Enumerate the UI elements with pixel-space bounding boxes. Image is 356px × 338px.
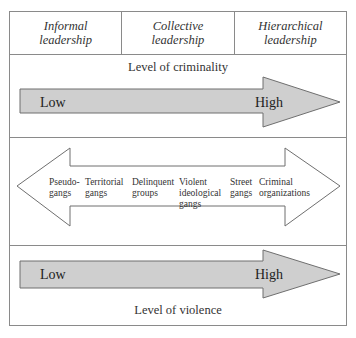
gang-type-line: ideological xyxy=(179,188,222,198)
criminality-section: Level of criminality Low High xyxy=(10,54,346,138)
header-collective-leadership: Collective leadership xyxy=(121,12,233,54)
diagram-frame: Informal leadership Collective leadershi… xyxy=(9,11,347,326)
violence-low-label: Low xyxy=(40,267,67,282)
header-label-line2: leadership xyxy=(152,33,205,47)
gang-type-line: groups xyxy=(132,188,158,198)
gang-type-line: Criminal xyxy=(259,177,293,187)
gang-type-line: gangs xyxy=(230,188,252,198)
double-arrow-icon xyxy=(17,148,340,226)
header-informal-leadership: Informal leadership xyxy=(10,12,121,54)
violence-label: Level of violence xyxy=(10,303,346,318)
violence-section: Low High Level of violence xyxy=(10,245,346,325)
gang-type-line: Delinquent xyxy=(132,177,175,187)
criminality-high-label: High xyxy=(255,95,283,110)
header-label-line1: Hierarchical xyxy=(258,19,322,33)
gang-types-section: Pseudo- gangs Territorial gangs Delinque… xyxy=(10,137,346,246)
criminality-low-label: Low xyxy=(40,95,67,110)
leadership-header-row: Informal leadership Collective leadershi… xyxy=(10,12,346,55)
header-label-line2: leadership xyxy=(258,33,322,47)
right-arrow-icon xyxy=(20,77,340,127)
gang-type-line: Territorial xyxy=(85,177,124,187)
gang-type-line: gangs xyxy=(49,188,71,198)
gang-type-line: gangs xyxy=(179,199,201,209)
gang-type-line: organizations xyxy=(259,188,310,198)
violence-high-label: High xyxy=(255,267,283,282)
gang-types-double-arrow: Pseudo- gangs Territorial gangs Delinque… xyxy=(10,137,346,245)
right-arrow-icon xyxy=(20,250,340,298)
gang-type-street-gangs: Street gangs xyxy=(230,177,253,198)
header-label-line1: Collective xyxy=(152,19,205,33)
gang-type-line: gangs xyxy=(85,188,107,198)
gang-type-line: Violent xyxy=(179,177,207,187)
header-label-line2: leadership xyxy=(39,33,92,47)
header-hierarchical-leadership: Hierarchical leadership xyxy=(234,12,346,54)
criminality-arrow: Low High xyxy=(10,54,346,137)
gang-type-line: Pseudo- xyxy=(49,177,80,187)
gang-type-line: Street xyxy=(230,177,253,187)
header-label-line1: Informal xyxy=(39,19,92,33)
